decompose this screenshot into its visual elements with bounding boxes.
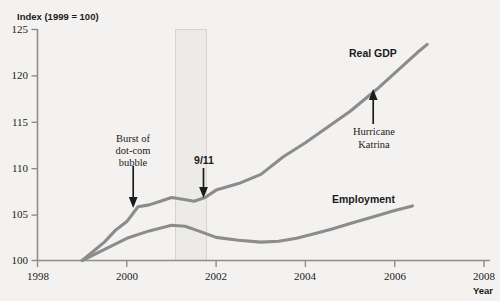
x-tick-label-2008: 2008 xyxy=(468,270,500,282)
y-tick-label-110: 110 xyxy=(4,162,28,174)
x-tick-label-2004: 2004 xyxy=(289,270,321,282)
y-tick-label-115: 115 xyxy=(4,116,28,128)
x-tick-label-2002: 2002 xyxy=(200,270,232,282)
y-tick-label-100: 100 xyxy=(4,254,28,266)
annotation-dotcom-line3: bubble xyxy=(101,157,165,169)
x-tick-label-2000: 2000 xyxy=(111,270,143,282)
x-tick-label-1998: 1998 xyxy=(22,270,54,282)
annotation-dotcom-line1: Burst of xyxy=(101,133,165,145)
annotation-dotcom-line2: dot-com xyxy=(101,145,165,157)
series-label-real-gdp: Real GDP xyxy=(349,48,397,60)
x-axis-title: Year xyxy=(468,286,498,297)
y-tick-marks xyxy=(32,30,38,261)
chart-canvas xyxy=(0,0,500,301)
series-label-employment: Employment xyxy=(332,194,395,206)
y-tick-label-105: 105 xyxy=(4,208,28,220)
y-tick-label-125: 125 xyxy=(4,23,28,35)
x-tick-label-2006: 2006 xyxy=(379,270,411,282)
x-tick-marks xyxy=(38,261,485,268)
annotation-katrina-line2: Katrina xyxy=(339,139,409,151)
chart-figure: Index (1999 = 100) 125 120 115 110 105 1… xyxy=(0,0,500,301)
y-axis-title: Index (1999 = 100) xyxy=(17,12,99,23)
annotation-katrina-line1: Hurricane xyxy=(339,126,409,138)
y-tick-label-120: 120 xyxy=(4,69,28,81)
annotation-nine-eleven: 9/11 xyxy=(182,155,226,167)
dotcom-arrow-icon xyxy=(129,166,138,208)
